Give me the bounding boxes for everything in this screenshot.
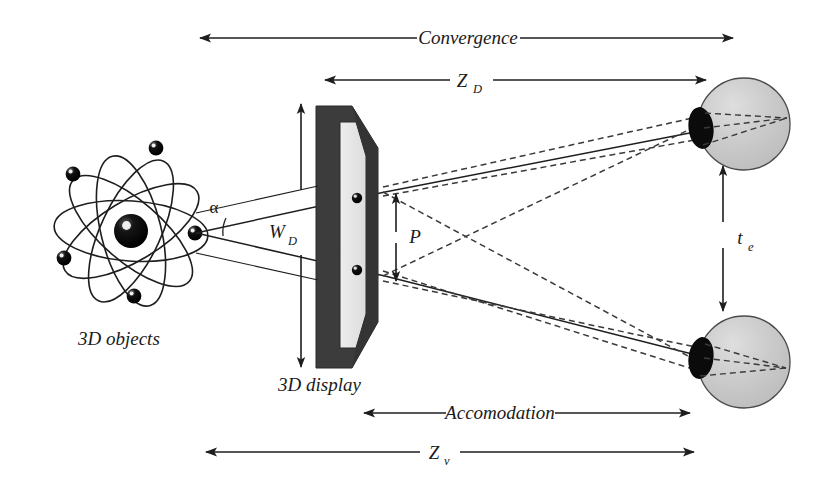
zd-sublabel: D [472,82,482,96]
wd-measure: W D [196,104,318,367]
dashed-upper-pixel-upper-eye-b [383,139,700,196]
p-label: P [408,226,421,247]
zv-sublabel: v [444,454,450,468]
accommodation-measure: Accomodation [364,402,690,423]
accommodation-label: Accomodation [443,402,555,423]
display-pixel-lower [352,265,362,275]
atom-object: 3D objects [50,141,213,349]
display-panel: 3D display [277,106,378,395]
display-pixel-lower-highlight [354,267,357,270]
te-measure: t e [723,166,754,311]
te-label: t [737,227,743,248]
dashed-rays [383,117,702,372]
atom-nucleus [114,214,148,248]
display-pixel-upper [352,193,362,203]
figure-root: Convergence Z D [0,0,826,497]
te-sublabel: e [748,240,754,254]
ray-upper-pixel-to-upper-eye [361,131,700,197]
wd-sublabel: D [287,234,297,248]
atom-nucleus-highlight [122,221,131,230]
dashed-lower-pixel-lower-eye-b [383,271,702,372]
zd-label: Z [457,70,468,91]
dashed-upper-pixel-upper-eye-a [383,117,697,187]
lower-eye [686,316,790,408]
zd-measure: Z D [325,70,706,96]
upper-eye [686,78,790,170]
convergence-label: Convergence [418,27,518,48]
p-measure: P [396,194,421,281]
dashed-upper-pixel-lower-eye [383,192,701,363]
wd-label: W [269,221,287,242]
ray-lower-pixel-to-lower-eye [361,271,700,356]
display-screen [340,122,366,348]
dashed-lower-pixel-lower-eye-a [383,281,700,348]
diagram-canvas: Convergence Z D [0,0,826,497]
objects-caption: 3D objects [77,328,160,349]
convergence-measure: Convergence [200,27,733,48]
display-pixel-upper-highlight [354,195,357,198]
zv-label: Z [429,442,440,463]
alpha-label: α [210,198,219,217]
alpha-angle: α [210,198,226,236]
display-caption: 3D display [277,374,361,395]
zv-measure: Z v [206,442,694,468]
